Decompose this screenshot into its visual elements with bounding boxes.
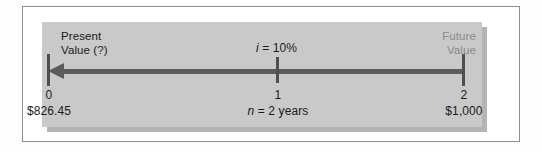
tick-mark-period-0 — [47, 54, 50, 86]
future-value-amount: $1,000 — [434, 105, 494, 119]
term-value: = 2 years — [254, 104, 308, 118]
figure-root: Present Value (?) Future Value i = 10% 0… — [0, 0, 542, 152]
period-number-1: 1 — [266, 89, 290, 103]
present-value-amount: $826.45 — [22, 105, 76, 119]
left-arrow-head-icon — [48, 63, 64, 79]
interest-rate-value: = 10% — [259, 41, 297, 55]
term-label: n = 2 years — [218, 105, 338, 119]
period-number-2: 2 — [452, 89, 476, 103]
timeline-axis-line — [62, 69, 464, 74]
tick-mark-period-2 — [462, 54, 465, 86]
interest-rate-label: i = 10% — [11, 42, 542, 56]
period-number-0: 0 — [36, 89, 62, 103]
tick-mark-period-1 — [276, 57, 279, 83]
